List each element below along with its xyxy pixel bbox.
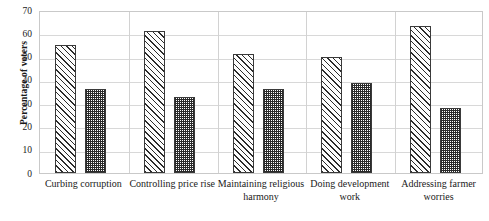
bar-series1 [410, 26, 431, 173]
y-tick-label: 20 [2, 123, 32, 132]
category-separator [129, 12, 130, 173]
category-separator [306, 12, 307, 173]
category-separator [218, 12, 219, 173]
y-tick-label: 10 [2, 146, 32, 155]
bar-series2 [174, 97, 195, 173]
y-tick-label: 0 [2, 170, 32, 179]
y-tick-label: 60 [2, 30, 32, 39]
bar-series1 [321, 57, 342, 173]
category-label: Doing development work [305, 178, 394, 203]
bar-series1 [55, 45, 76, 173]
y-tick-label: 40 [2, 76, 32, 85]
bar-series1 [144, 31, 165, 173]
plot-area [39, 11, 483, 174]
bar-series2 [351, 83, 372, 173]
bar-series2 [263, 89, 284, 173]
x-axis-category-labels: Curbing corruptionControlling price rise… [39, 178, 483, 220]
y-tick-label: 70 [2, 7, 32, 16]
category-label: Addressing farmer worries [394, 178, 483, 203]
bar-chart: Percentage of voters 010203040506070 Cur… [0, 0, 489, 221]
y-tick-label: 50 [2, 53, 32, 62]
category-label: Maintaining religious harmony [217, 178, 306, 203]
category-label: Controlling price rise [128, 178, 217, 191]
y-tick-label: 30 [2, 100, 32, 109]
bar-series2 [85, 89, 106, 173]
category-separator [395, 12, 396, 173]
bar-series2 [440, 108, 461, 173]
bar-series1 [233, 54, 254, 173]
category-label: Curbing corruption [39, 178, 128, 191]
